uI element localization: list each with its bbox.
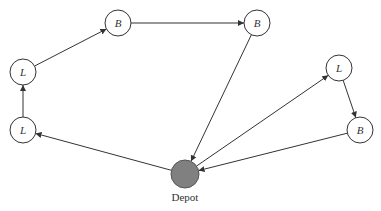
node-l2: L bbox=[10, 59, 36, 85]
diagram-svg: LLBBLB Depot bbox=[0, 0, 381, 211]
node-l1: L bbox=[10, 117, 36, 143]
node-label: B bbox=[115, 17, 122, 29]
node-b3: B bbox=[347, 117, 373, 143]
node-label: L bbox=[335, 62, 342, 74]
depot-label: Depot bbox=[172, 191, 199, 203]
depot-node: Depot bbox=[171, 160, 199, 203]
edges-group bbox=[23, 23, 356, 171]
node-label: L bbox=[19, 124, 26, 136]
depot-circle bbox=[171, 160, 199, 188]
node-l3: L bbox=[326, 55, 352, 81]
node-label: B bbox=[254, 17, 261, 29]
edge-l3-to-b3 bbox=[343, 80, 356, 117]
edge-d-to-l3 bbox=[197, 75, 329, 166]
node-b2: B bbox=[244, 10, 270, 36]
nodes-group: LLBBLB bbox=[10, 10, 373, 143]
routing-diagram: LLBBLB Depot bbox=[0, 0, 381, 211]
node-label: L bbox=[19, 66, 26, 78]
node-label: B bbox=[357, 124, 364, 136]
edge-l2-to-b1 bbox=[35, 29, 107, 66]
edge-b2-to-d bbox=[191, 35, 251, 162]
edge-b3-to-d bbox=[199, 133, 348, 170]
node-b1: B bbox=[105, 10, 131, 36]
edge-d-to-l1 bbox=[36, 133, 172, 170]
